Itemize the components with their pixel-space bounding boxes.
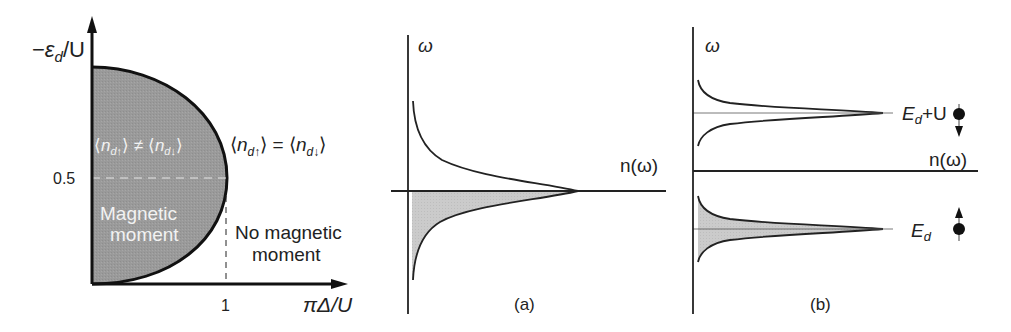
panel-a-density-label: n(ω) [620, 155, 658, 176]
spin-up-electron-icon [953, 207, 965, 241]
panel-b-density-label: n(ω) [929, 149, 967, 170]
magnetic-region [92, 67, 227, 284]
y-tick-label: 0.5 [53, 170, 75, 187]
panel-a: ω n(ω) (a) [391, 35, 666, 314]
panel-a-omega-label: ω [418, 35, 433, 56]
x-axis-label: πΔ/U [303, 293, 353, 316]
phase-diagram: −εd/U 0.5 1 πΔ/U ⟨nd↑⟩ ≠ ⟨nd↓⟩ ⟨nd↑⟩ = ⟨… [32, 16, 353, 316]
panel-b-upper-upper-curve [698, 80, 883, 113]
panel-a-filled-states [412, 191, 578, 280]
nonmagnetic-condition-label: ⟨nd↑⟩ = ⟨nd↓⟩ [230, 134, 326, 159]
magnetic-region-label-line2: moment [110, 224, 179, 245]
lower-level-label: Ed [911, 220, 932, 244]
nonmagnetic-region-label-line2: moment [252, 244, 321, 265]
y-axis-arrow-icon [87, 16, 97, 33]
figure-canvas: −εd/U 0.5 1 πΔ/U ⟨nd↑⟩ ≠ ⟨nd↓⟩ ⟨nd↑⟩ = ⟨… [0, 0, 1011, 332]
x-tick-label: 1 [221, 297, 230, 314]
magnetic-region-label-line1: Magnetic [100, 203, 177, 224]
panel-a-caption: (a) [514, 295, 535, 314]
upper-level-label: Ed+U [902, 103, 947, 127]
panel-b-upper-lower-curve [698, 113, 883, 146]
x-axis-arrow-icon [331, 279, 348, 289]
panel-b-omega-label: ω [705, 35, 720, 56]
y-axis-label: −εd/U [32, 37, 85, 65]
panel-a-upper-curve [413, 101, 578, 191]
panel-b: ω n(ω) (b) Ed+U Ed [693, 27, 978, 314]
panel-b-caption: (b) [810, 295, 831, 314]
nonmagnetic-region-label-line1: No magnetic [235, 222, 342, 243]
spin-down-electron-icon [953, 104, 965, 137]
